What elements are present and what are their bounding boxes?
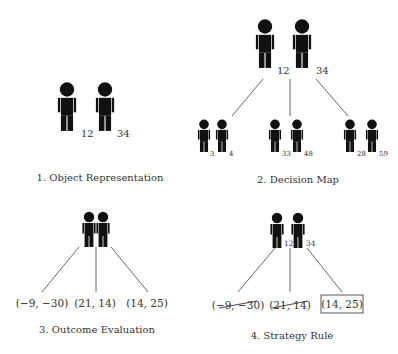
outcome-label: (14, 25) [126,297,168,309]
figure-label: 28 [357,150,366,158]
panel-outcome-evaluation: (−9, −30) (21, 14) (14, 25) 3. Outcome E… [16,212,168,335]
branch-line [238,248,275,292]
person-icon [82,212,95,247]
figure-label: 4 [229,150,234,158]
figure-label: 12 [284,239,294,248]
figure-label: 34 [306,239,316,248]
branch-line [42,247,79,292]
branch-line [232,79,263,116]
branch-line [316,79,348,116]
panel-object-representation: 12 34 1. Object Representation [37,82,164,183]
person-icon [198,120,210,152]
panel-strategy-rule: 12 34 (−9, −30) (21, 14) (14, 25) 4. Str… [212,213,363,341]
figure-label: 34 [316,65,329,76]
outcome-struck: (−9, −30) [212,299,265,311]
outcome-label: (14, 25) [321,298,363,310]
panel-caption: 2. Decision Map [257,174,339,185]
panel-caption: 1. Object Representation [37,172,164,183]
outcome-label: (21, 14) [269,299,311,311]
person-icon [256,19,274,68]
figure-label: 34 [117,128,130,139]
figure-label: 12 [277,65,290,76]
figure-label: 59 [379,150,388,158]
figure-label: 33 [282,150,291,158]
figure-label: 3 [210,150,214,158]
person-icon [96,212,109,247]
outcome-struck: (21, 14) [269,299,311,311]
person-icon [58,82,76,131]
branch-line [111,247,148,292]
person-icon [269,120,281,152]
person-icon [96,82,114,131]
person-icon [291,120,303,152]
panel-caption: 3. Outcome Evaluation [39,324,155,335]
person-icon [270,213,283,248]
panel-decision-map: 12 34 3 4 33 48 28 59 2. Decision Map [198,19,388,185]
branch-line [307,248,342,292]
diagram-canvas: 12 34 1. Object Representation 12 34 3 4… [0,0,398,354]
outcome-label: (−9, −30) [16,297,69,309]
person-icon [344,120,356,152]
person-icon [293,19,311,68]
figure-label: 48 [304,150,313,158]
figure-label: 12 [81,128,94,139]
person-icon [216,120,228,152]
outcome-selected: (14, 25) [321,295,363,313]
panel-caption: 4. Strategy Rule [251,330,334,341]
outcome-label: (21, 14) [74,297,116,309]
person-icon [366,120,378,152]
